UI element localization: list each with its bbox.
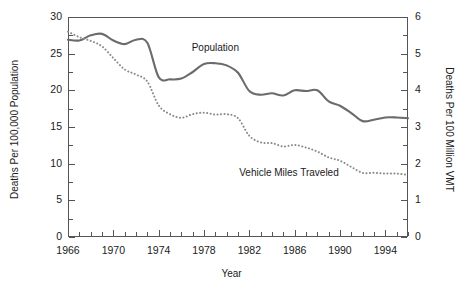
y-tick-label-left-25: 25	[32, 47, 62, 59]
x-tick-label-1986: 1986	[275, 244, 315, 256]
plot-area: PopulationVehicle Miles Traveled	[68, 17, 408, 237]
y-tick-label-left-15: 15	[32, 120, 62, 132]
x-tick-label-1966: 1966	[48, 244, 88, 256]
y-axis-right-title: Deaths Per 100 Million VMT	[444, 30, 455, 230]
annotation-population: Population	[192, 42, 239, 53]
y-axis-left-title: Deaths Per 100,000 Population	[9, 30, 20, 230]
y-tick-right-0	[401, 237, 407, 238]
y-tick-label-left-10: 10	[32, 157, 62, 169]
y-tick-label-left-20: 20	[32, 83, 62, 95]
y-tick-label-right-0: 0	[415, 230, 445, 242]
y-tick-label-right-4: 4	[415, 83, 445, 95]
x-tick-label-1994: 1994	[365, 244, 405, 256]
y-tick-left-0	[69, 237, 75, 238]
x-tick-label-1982: 1982	[229, 244, 269, 256]
y-tick-label-right-6: 6	[415, 10, 445, 22]
x-tick-1996	[408, 232, 409, 236]
x-tick-label-1970: 1970	[93, 244, 133, 256]
y-tick-label-right-2: 2	[415, 157, 445, 169]
x-tick-label-1990: 1990	[320, 244, 360, 256]
y-tick-label-left-0: 0	[32, 230, 62, 242]
y-tick-label-right-3: 3	[415, 120, 445, 132]
y-tick-label-right-5: 5	[415, 47, 445, 59]
annotation-vehicle-miles-traveled: Vehicle Miles Traveled	[239, 167, 339, 178]
x-tick-label-1974: 1974	[139, 244, 179, 256]
y-tick-label-right-1: 1	[415, 193, 445, 205]
x-axis-title: Year	[0, 268, 463, 279]
chart-figure: Deaths Per 100,000 Population Deaths Per…	[0, 0, 463, 293]
x-tick-label-1978: 1978	[184, 244, 224, 256]
y-tick-label-left-5: 5	[32, 193, 62, 205]
y-tick-label-left-30: 30	[32, 10, 62, 22]
